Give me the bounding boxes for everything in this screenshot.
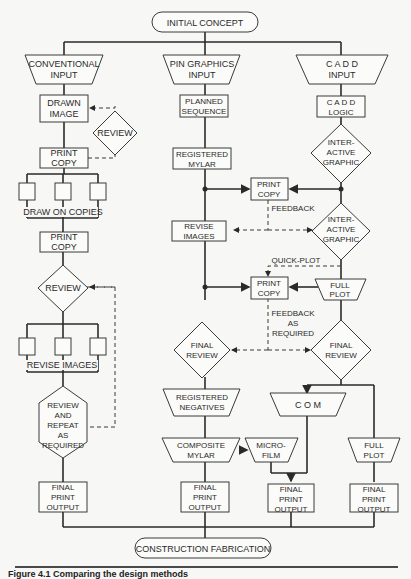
node-revise-images: REVISE IMAGES: [19, 338, 106, 370]
svg-text:REVIEW: REVIEW: [186, 351, 218, 360]
svg-text:FULL: FULL: [330, 281, 350, 290]
svg-text:PRINT: PRINT: [51, 232, 79, 242]
svg-text:FINAL: FINAL: [52, 483, 75, 492]
svg-text:C A D D: C A D D: [327, 98, 356, 107]
node-review-2: REVIEW: [38, 265, 88, 312]
node-print-copy-2: PRINT COPY: [40, 232, 88, 252]
node-planned-sequence: PLANNED SEQUENCE: [180, 95, 228, 117]
svg-text:FEEDBACK: FEEDBACK: [271, 309, 315, 318]
label-quick-plot: QUICK-PLOT: [272, 256, 321, 265]
svg-text:PLOT: PLOT: [364, 451, 385, 460]
node-drawn-image: DRAWN IMAGE: [40, 95, 88, 122]
node-conventional-final-output: FINAL PRINT OUTPUT: [39, 482, 87, 512]
node-review-and-repeat: REVIEW AND REPEAT AS REQUIRED: [39, 386, 87, 458]
svg-text:REVISE IMAGES: REVISE IMAGES: [27, 360, 98, 370]
node-review-1: REVIEW: [93, 111, 137, 155]
node-print-copy-b: PRINT COPY: [251, 277, 288, 299]
svg-text:FINAL: FINAL: [194, 483, 217, 492]
svg-text:NEGATIVES: NEGATIVES: [179, 403, 224, 412]
svg-text:COPY: COPY: [51, 158, 77, 168]
svg-text:CONVENTIONAL: CONVENTIONAL: [28, 59, 99, 69]
node-cadd-final-output: FINAL PRINT OUTPUT: [350, 484, 398, 514]
svg-text:C O M: C O M: [295, 400, 321, 410]
svg-text:COMPOSITE: COMPOSITE: [177, 441, 225, 450]
node-pin-final-output: FINAL PRINT OUTPUT: [181, 482, 229, 512]
svg-text:PRINT: PRINT: [279, 495, 303, 504]
svg-text:REPEAT: REPEAT: [47, 421, 79, 430]
terminal-initial-concept: INITIAL CONCEPT: [152, 12, 258, 32]
node-full-plot-2: FULL PLOT: [348, 438, 400, 462]
svg-text:COPY: COPY: [51, 242, 77, 252]
svg-text:MICRO-: MICRO-: [256, 441, 286, 450]
node-interactive-graphic-1: INTER- ACTIVE GRAPHIC: [311, 124, 371, 183]
svg-text:MYLAR: MYLAR: [188, 160, 216, 169]
svg-text:C A D D: C A D D: [326, 59, 359, 69]
svg-text:INTER-: INTER-: [328, 215, 355, 224]
svg-text:AS: AS: [288, 319, 299, 328]
svg-text:OUTPUT: OUTPUT: [358, 505, 391, 514]
node-registered-mylar: REGISTERED MYLAR: [173, 148, 231, 169]
svg-text:PRINT: PRINT: [51, 493, 75, 502]
node-com: C O M: [270, 393, 346, 416]
svg-text:REVIEW: REVIEW: [97, 128, 133, 138]
svg-text:INITIAL CONCEPT: INITIAL CONCEPT: [167, 18, 244, 28]
node-print-copy-a: PRINT COPY: [251, 178, 288, 200]
svg-text:IMAGES: IMAGES: [183, 232, 214, 241]
label-feedback: FEEDBACK: [271, 204, 315, 213]
svg-text:FILM: FILM: [262, 451, 281, 460]
svg-text:REQUIRED: REQUIRED: [42, 441, 84, 450]
svg-text:ACTIVE: ACTIVE: [327, 148, 356, 157]
svg-text:INPUT: INPUT: [51, 70, 79, 80]
svg-text:OUTPUT: OUTPUT: [189, 503, 222, 512]
svg-text:FINAL: FINAL: [330, 341, 353, 350]
svg-text:FINAL: FINAL: [191, 341, 214, 350]
svg-text:OUTPUT: OUTPUT: [275, 505, 308, 514]
svg-text:FULL: FULL: [364, 441, 384, 450]
node-print-copy-1: PRINT COPY: [40, 148, 88, 168]
svg-text:REGISTERED: REGISTERED: [176, 393, 228, 402]
svg-text:REVIEW: REVIEW: [45, 283, 81, 293]
svg-text:PIN GRAPHICS: PIN GRAPHICS: [170, 59, 235, 69]
svg-text:REQUIRED: REQUIRED: [272, 329, 314, 338]
svg-text:PRINT: PRINT: [257, 279, 281, 288]
terminal-construction-fabrication: CONSTRUCTION FABRICATION: [135, 538, 271, 558]
node-pin-final-review: FINAL REVIEW: [174, 322, 230, 378]
svg-text:INPUT: INPUT: [329, 70, 357, 80]
svg-text:INPUT: INPUT: [189, 70, 217, 80]
svg-text:GRAPHIC: GRAPHIC: [323, 158, 360, 167]
svg-text:PLOT: PLOT: [330, 290, 351, 299]
svg-text:GRAPHIC: GRAPHIC: [323, 235, 360, 244]
node-registered-negatives: REGISTERED NEGATIVES: [163, 389, 240, 416]
svg-text:PRINT: PRINT: [362, 495, 386, 504]
node-cadd-input: C A D D INPUT: [296, 55, 388, 84]
svg-text:REVIEW: REVIEW: [325, 351, 357, 360]
svg-text:ACTIVE: ACTIVE: [327, 225, 356, 234]
svg-text:REVISE: REVISE: [184, 222, 213, 231]
svg-text:INTER-: INTER-: [328, 138, 355, 147]
svg-text:COPY: COPY: [258, 289, 281, 298]
node-full-plot-1: FULL PLOT: [315, 279, 366, 300]
svg-text:FINAL: FINAL: [280, 485, 303, 494]
svg-text:SEQUENCE: SEQUENCE: [182, 107, 227, 116]
svg-text:CONSTRUCTION FABRICATION: CONSTRUCTION FABRICATION: [136, 544, 270, 554]
node-pin-revise-images: REVISE IMAGES: [172, 221, 226, 241]
svg-text:IMAGE: IMAGE: [49, 109, 78, 119]
node-microfilm: MICRO- FILM: [245, 438, 298, 462]
svg-text:PRINT: PRINT: [257, 180, 281, 189]
node-interactive-graphic-2: INTER- ACTIVE GRAPHIC: [312, 203, 370, 260]
svg-text:REGISTERED: REGISTERED: [176, 150, 228, 159]
node-conventional-input: CONVENTIONAL INPUT: [25, 55, 103, 84]
svg-text:REVIEW: REVIEW: [47, 401, 79, 410]
node-middle-final-output: FINAL PRINT OUTPUT: [268, 484, 314, 514]
svg-text:DRAW ON COPIES: DRAW ON COPIES: [23, 207, 103, 217]
svg-text:COPY: COPY: [258, 190, 281, 199]
node-cadd-logic: C A D D LOGIC: [317, 96, 365, 117]
node-composite-mylar: COMPOSITE MYLAR: [162, 438, 240, 462]
svg-text:LOGIC: LOGIC: [329, 108, 354, 117]
node-draw-on-copies: DRAW ON COPIES: [18, 183, 106, 217]
svg-text:AND: AND: [55, 411, 72, 420]
svg-text:MYLAR: MYLAR: [187, 451, 215, 460]
svg-text:PRINT: PRINT: [193, 493, 217, 502]
svg-text:PRINT: PRINT: [51, 148, 79, 158]
